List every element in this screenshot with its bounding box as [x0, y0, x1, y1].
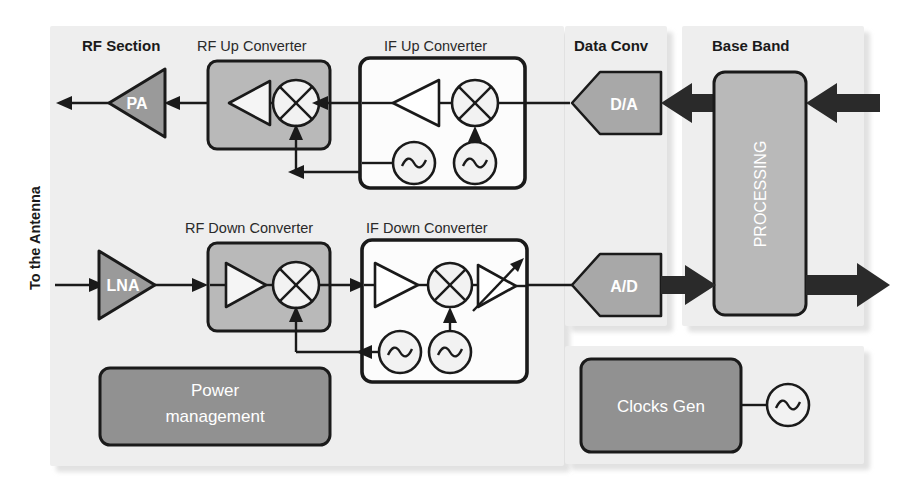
- rf-transceiver-block-diagram: RF Section Data Conv Base Band RF Up Con…: [0, 0, 899, 496]
- block-if-down-converter: [356, 240, 527, 382]
- block-da-label: D/A: [610, 96, 638, 113]
- block-power-management-label-line1: Power: [191, 381, 240, 400]
- oscillator-icon: [429, 331, 471, 373]
- oscillator-icon: [454, 142, 496, 184]
- block-rf-up-converter: [208, 61, 330, 149]
- block-ad-label: A/D: [610, 278, 638, 295]
- block-lna-label: LNA: [107, 277, 140, 294]
- panel-title-rf-section: RF Section: [82, 37, 160, 54]
- diagram-canvas: RF Section Data Conv Base Band RF Up Con…: [0, 0, 899, 496]
- label-to-the-antenna: To the Antenna: [27, 185, 43, 290]
- block-power-management-label-line2: management: [165, 407, 265, 426]
- block-power-management: Power management: [100, 368, 330, 445]
- block-rf-down-converter: [208, 243, 330, 331]
- block-clocks-gen-label: Clocks Gen: [617, 397, 705, 416]
- panel-title-data-conv: Data Conv: [574, 37, 649, 54]
- block-pa-label: PA: [126, 95, 147, 112]
- section-title-rf-up-converter: RF Up Converter: [197, 38, 307, 54]
- oscillator-icon: [767, 384, 809, 426]
- block-processing-label: PROCESSING: [752, 141, 769, 248]
- mixer-icon: [273, 262, 319, 308]
- oscillator-icon: [393, 142, 435, 184]
- section-title-rf-down-converter: RF Down Converter: [185, 220, 313, 236]
- oscillator-icon: [379, 331, 421, 373]
- section-title-if-up-converter: IF Up Converter: [384, 38, 487, 54]
- mixer-icon: [452, 80, 498, 126]
- block-if-up-converter: [360, 58, 525, 188]
- mixer-icon: [428, 263, 472, 307]
- panel-title-base-band: Base Band: [712, 37, 790, 54]
- section-title-if-down-converter: IF Down Converter: [366, 220, 488, 236]
- block-processing: PROCESSING: [714, 72, 806, 315]
